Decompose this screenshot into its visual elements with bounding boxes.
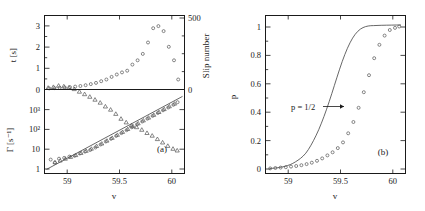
ytick-a-top-1: 1 [36,63,40,73]
ylabel-a-bottom: Γ [s⁻¹] [5,128,15,153]
xlabel-a: v [112,191,117,201]
ytick-a-bottom-1: 1 [36,164,40,174]
ytick-a-bottom-100: 10² [29,124,41,134]
xtick-a-60: 60 [168,176,177,186]
ytick-a-bottom-1000: 10³ [29,105,41,115]
ytick-a-top-0: 0 [36,85,40,95]
ytick-right-a-top-0: 0 [188,85,192,95]
plot-frame-a-top [45,16,185,90]
panel-a: 0 1 2 3 t [s] 0 500 Slip number [0,0,215,211]
yaxis-right-ticks-a-top [180,18,185,90]
subplot-a-bottom: 1 10 10² 10³ Γ [s⁻¹] 59 59.5 60 v [5,90,185,202]
figure-container: 0 1 2 3 t [s] 0 500 Slip number [0,0,425,211]
xlabel-b: v [333,191,338,201]
series-slipnumber-markers [48,25,180,90]
ylabel-b: p [228,94,238,99]
series-duration-markers [46,84,179,152]
annotation-label: p = 1/2 [291,102,315,112]
ytick-b-0: 0 [257,164,261,174]
ytick-a-top-3: 3 [36,21,40,31]
xaxis-top-ticks-a-top [67,16,172,20]
panel-b: 0 0.2 0.4 0.6 0.8 1 p 59 59.5 60 v [215,0,425,211]
ytick-b-04: 0.4 [250,107,261,117]
annotation-arrowhead [340,104,344,108]
panel-label-a: (a) [157,144,167,154]
ytick-b-08: 0.8 [250,50,261,60]
ytick-a-bottom-10: 10 [32,144,41,154]
ytick-b-1: 1 [257,22,261,32]
fit-line-a-bottom [47,96,183,169]
xaxis-ticks-a-bottom [67,170,172,174]
plot-frame-a-bottom [45,90,185,174]
annotation-p-half: p = 1/2 [291,102,344,112]
ylabel-a-top-left: t [s] [8,48,18,62]
ytick-b-06: 0.6 [250,79,261,89]
yaxis-left-ticks-a-top [45,26,50,90]
ylabel-a-top-right: Slip number [201,34,211,78]
panel-a-svg: 0 1 2 3 t [s] 0 500 Slip number [0,0,215,211]
xtick-b-595: 59.5 [333,176,348,186]
panel-b-svg: 0 0.2 0.4 0.6 0.8 1 p 59 59.5 60 v [215,0,425,211]
xtick-a-59: 59 [63,176,72,186]
ytick-b-02: 0.2 [250,136,261,146]
xtick-b-59: 59 [284,176,293,186]
ytick-right-a-top-500: 500 [188,13,201,23]
panel-label-b: (b) [378,147,389,157]
ytick-a-top-2: 2 [36,42,40,52]
xtick-a-595: 59.5 [112,176,127,186]
series-gamma-circles [49,101,179,165]
xtick-b-60: 60 [389,176,398,186]
